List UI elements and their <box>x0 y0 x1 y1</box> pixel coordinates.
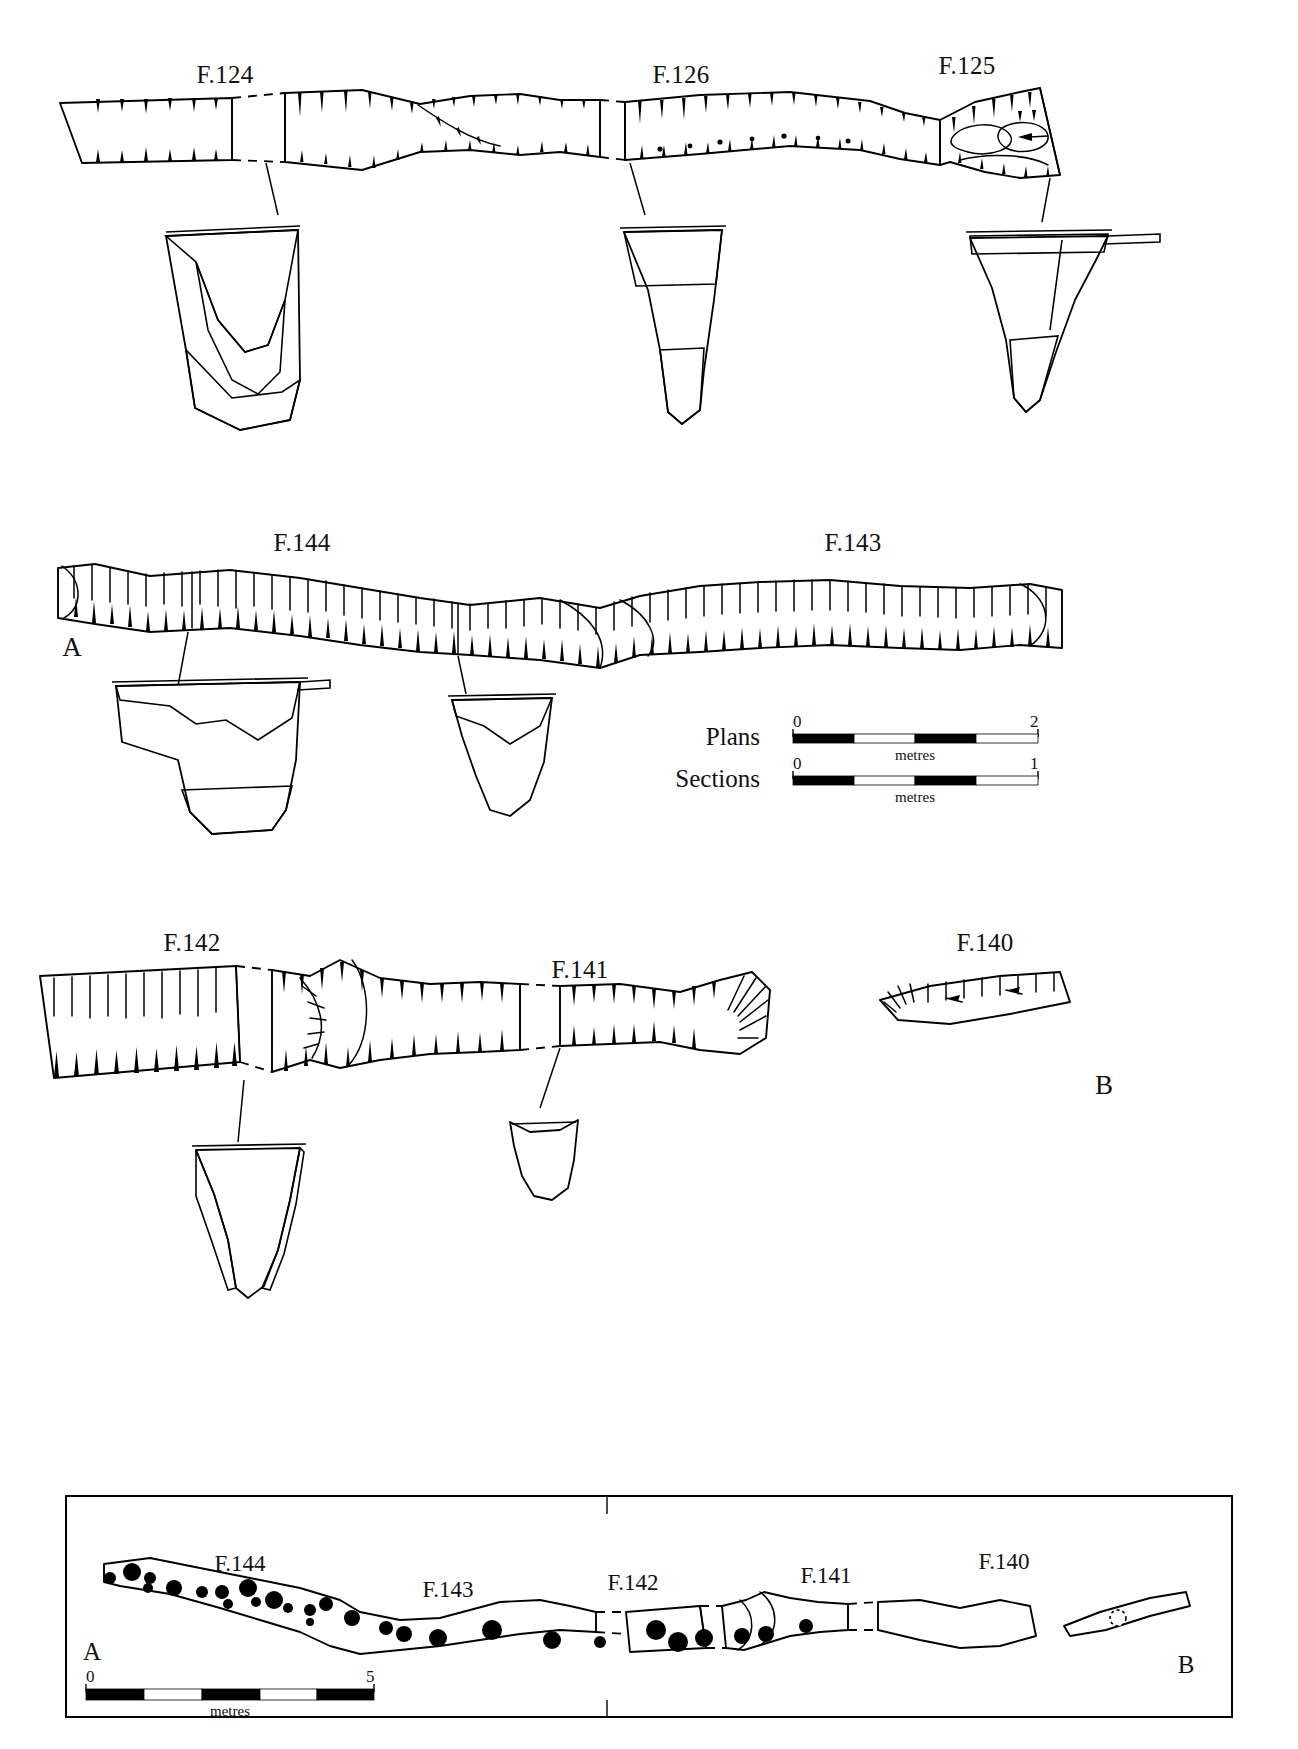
leader-f124 <box>266 163 278 215</box>
plan-f124-west <box>60 98 232 163</box>
row2-plans-group <box>58 564 1062 668</box>
marker-a: A <box>62 632 82 662</box>
plan-f126 <box>625 92 940 165</box>
leader-f141 <box>540 1048 560 1108</box>
overview-scale: 0 5 metres <box>86 1667 375 1719</box>
overview-marker-b: B <box>1178 1651 1195 1678</box>
section-f125 <box>966 230 1160 412</box>
plan-f142-west <box>40 966 240 1078</box>
label-f141: F.141 <box>551 956 608 983</box>
plans-scale-caption: Plans <box>706 723 760 750</box>
overview-scale-start: 0 <box>86 1667 95 1686</box>
leader-f144b <box>458 656 466 694</box>
section-f124 <box>166 226 300 430</box>
label-f126: F.126 <box>652 61 709 88</box>
sections-scale-row: Sections 0 1 metres <box>675 754 1038 805</box>
plan-f141 <box>560 972 770 1054</box>
leader-f126 <box>630 163 645 215</box>
scale-legend: Plans 0 2 metres Sections 0 1 metres <box>675 712 1038 805</box>
plan-f142-centre <box>272 960 520 1072</box>
leader-f125 <box>1042 178 1050 222</box>
label-f143: F.143 <box>824 529 881 556</box>
sections-scale-unit: metres <box>895 789 935 805</box>
overview-label-f142: F.142 <box>607 1570 658 1595</box>
leader-f142 <box>238 1080 244 1142</box>
plan-f140 <box>880 972 1070 1024</box>
overview-ditch-f141-terminal <box>878 1600 1036 1648</box>
overview-panel: 0 5 metres <box>66 1496 1232 1719</box>
figure-sheet: Plans 0 2 metres Sections 0 1 metres <box>0 0 1298 1749</box>
overview-scale-end: 5 <box>366 1667 375 1686</box>
sections-scale-start: 0 <box>793 754 802 773</box>
sections-scale-caption: Sections <box>675 765 760 792</box>
row2-sections-group <box>112 678 556 834</box>
plan-f125 <box>940 88 1060 178</box>
label-f142: F.142 <box>163 929 220 956</box>
plans-scale-end: 2 <box>1030 712 1039 731</box>
row1-plans-group <box>60 88 1060 178</box>
overview-ditch-f144-f143 <box>104 1558 596 1654</box>
overview-scale-unit: metres <box>210 1703 250 1719</box>
label-f124: F.124 <box>196 61 253 88</box>
marker-b: B <box>1095 1070 1113 1100</box>
section-f142 <box>192 1144 306 1298</box>
label-f125: F.125 <box>938 52 995 79</box>
plans-scale-start: 0 <box>793 712 802 731</box>
label-f140: F.140 <box>956 929 1013 956</box>
row3-sections-group <box>192 1120 578 1298</box>
section-f144b <box>448 694 556 816</box>
overview-ditch-f142 <box>626 1606 706 1652</box>
section-f126 <box>620 226 726 424</box>
overview-label-f143: F.143 <box>422 1577 473 1602</box>
overview-ditch-f140 <box>1064 1592 1190 1636</box>
leader-f144 <box>178 632 188 686</box>
label-f144: F.144 <box>273 529 330 556</box>
section-f141 <box>510 1120 578 1200</box>
overview-label-f144: F.144 <box>214 1551 266 1576</box>
row1-sections-group <box>166 226 1160 430</box>
overview-label-f141: F.141 <box>800 1563 851 1588</box>
section-f144 <box>112 678 330 834</box>
plan-f124-east <box>285 90 600 170</box>
archaeological-figure: Plans 0 2 metres Sections 0 1 metres <box>0 0 1298 1749</box>
plans-scale-row: Plans 0 2 metres <box>706 712 1039 763</box>
sections-scale-end: 1 <box>1030 754 1039 773</box>
overview-marker-a: A <box>83 1638 101 1665</box>
overview-label-f140: F.140 <box>978 1549 1029 1574</box>
plans-scale-unit: metres <box>895 747 935 763</box>
